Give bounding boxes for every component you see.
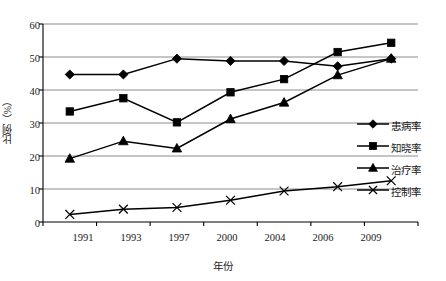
plot-area — [0, 0, 446, 281]
legend-label-2: 治疗率 — [391, 162, 421, 177]
marker-square-1-6 — [388, 39, 395, 46]
marker-square-1-1 — [120, 95, 127, 102]
marker-triangle-2-1 — [119, 136, 129, 145]
marker-square-1-4 — [280, 75, 287, 82]
marker-diamond-0-1 — [119, 70, 128, 79]
marker-diamond-legend-0 — [369, 120, 377, 128]
line-chart: 比例（%） 60 50 40 30 20 10 0 1991 1993 1997… — [0, 0, 446, 281]
series-line-1 — [70, 43, 391, 123]
marker-square-legend-1 — [370, 143, 377, 150]
legend-item-3 — [357, 186, 389, 194]
series-group — [65, 39, 396, 219]
marker-diamond-0-4 — [279, 56, 288, 65]
marker-square-1-5 — [334, 48, 341, 55]
series-2 — [65, 54, 396, 163]
marker-square-1-0 — [66, 108, 73, 115]
legend-item-0 — [357, 120, 389, 128]
marker-diamond-0-2 — [172, 54, 181, 63]
legend-item-1 — [357, 143, 389, 150]
series-1 — [66, 39, 395, 126]
marker-square-1-2 — [173, 119, 180, 126]
legend-label-1: 知晓率 — [391, 140, 421, 155]
legend-label-0: 患病率 — [391, 118, 421, 133]
legend-label-3: 控制率 — [391, 184, 421, 199]
marker-triangle-2-4 — [279, 98, 289, 107]
series-0 — [65, 54, 396, 79]
series-3 — [65, 176, 395, 218]
gridlines — [43, 24, 418, 189]
marker-square-1-3 — [227, 89, 234, 96]
axis-lines — [39, 24, 418, 226]
series-line-3 — [70, 181, 391, 215]
marker-diamond-0-0 — [65, 70, 74, 79]
legend-item-2 — [357, 163, 389, 171]
marker-diamond-0-3 — [226, 56, 235, 65]
series-line-2 — [70, 59, 391, 159]
